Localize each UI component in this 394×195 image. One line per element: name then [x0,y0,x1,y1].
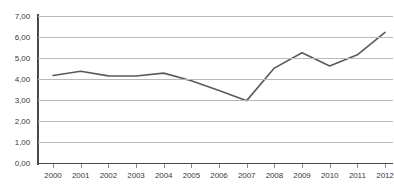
gridline [38,16,393,17]
y-axis-tick-label: 0,00 [15,159,30,168]
y-axis-tick-label: 7,00 [15,12,30,21]
x-axis-tick-label: 2011 [349,171,366,180]
x-axis-tick [108,164,109,168]
gridline [38,142,393,143]
gridline [38,121,393,122]
plot-area: 2000200120022003200420052006200720082009… [34,0,393,195]
gridline [38,58,393,59]
x-axis-tick-label: 2007 [238,171,255,180]
x-axis-tick-label: 2010 [321,171,338,180]
x-axis-tick [357,164,358,168]
y-axis-tick-label: 5,00 [15,54,30,63]
x-axis-tick [219,164,220,168]
y-axis-tick-label: 4,00 [15,75,30,84]
y-axis-tick-label: 1,00 [15,138,30,147]
x-axis-tick-label: 2002 [100,171,117,180]
y-axis-tick-label: 2,00 [15,117,30,126]
x-axis-tick-label: 2009 [293,171,310,180]
x-axis-tick-label: 2005 [183,171,200,180]
gridline [38,79,393,80]
x-axis-tick-label: 2000 [44,171,61,180]
gridline [38,100,393,101]
y-axis-tick-labels: 0,001,002,003,004,005,006,007,00 [0,0,34,195]
x-axis-tick-label: 2012 [376,171,393,180]
x-axis-tick [330,164,331,168]
y-axis-tick-label: 3,00 [15,96,30,105]
x-axis-tick-label: 2004 [155,171,172,180]
y-axis-tick-label: 6,00 [15,33,30,42]
x-axis-tick [81,164,82,168]
x-axis-tick [191,164,192,168]
series-line [34,0,393,195]
x-axis-tick-label: 2006 [210,171,227,180]
x-axis-tick-label: 2001 [72,171,89,180]
x-axis-tick [385,164,386,168]
x-axis-tick-label: 2003 [127,171,144,180]
x-axis-tick [247,164,248,168]
x-axis-tick [136,164,137,168]
gridline [38,37,393,38]
x-axis-tick [53,164,54,168]
x-axis-tick [302,164,303,168]
x-axis-tick [164,164,165,168]
x-axis-tick-label: 2008 [266,171,283,180]
x-axis-tick [274,164,275,168]
